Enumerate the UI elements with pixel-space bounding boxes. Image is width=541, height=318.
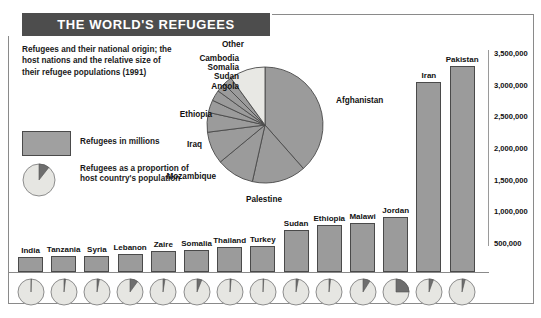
y-axis-tick-1500000: 1,500,000 <box>494 176 528 185</box>
bar-india <box>18 257 43 272</box>
bar-label-jordan: Jordan <box>371 206 420 215</box>
host-proportion-pie-tanzania <box>50 278 78 306</box>
frame-left-rule <box>8 36 9 304</box>
host-proportion-pie-jordan <box>382 278 410 306</box>
host-proportion-pie-thailand <box>216 278 244 306</box>
bar-iran <box>416 82 441 273</box>
origin-label-afghanistan: Afghanistan <box>336 96 383 105</box>
host-proportion-pie-pakistan <box>448 278 476 306</box>
bar-baseline <box>8 272 489 273</box>
y-axis-tick-2500000: 2,500,000 <box>494 112 528 121</box>
y-axis-tick-500000: 500,000 <box>494 239 521 248</box>
legend-bar-swatch <box>22 131 71 156</box>
host-proportion-pie-malawi <box>349 278 377 306</box>
origin-label-palestine: Palestine <box>246 195 282 204</box>
origin-label-angola: Angola <box>171 82 239 91</box>
y-axis-tick-2000000: 2,000,000 <box>494 144 528 153</box>
host-proportion-pie-somalia <box>183 278 211 306</box>
y-axis-tick-3000000: 3,000,000 <box>494 81 528 90</box>
bar-label-iran: Iran <box>404 71 453 80</box>
bar-somalia <box>184 250 209 272</box>
bar-ethiopia <box>317 225 342 272</box>
bar-jordan <box>383 217 408 272</box>
bar-lebanon <box>118 254 143 272</box>
title-banner: THE WORLD'S REFUGEES <box>22 13 270 36</box>
origin-label-mozambique: Mozambique <box>140 172 216 181</box>
origin-label-ethiopia: Ethiopia <box>152 110 212 119</box>
bar-syria <box>84 256 109 272</box>
host-proportion-pie-zaire <box>149 278 177 306</box>
origin-label-sudan: Sudan <box>183 72 239 81</box>
bar-malawi <box>350 223 375 272</box>
y-axis-line <box>488 50 489 246</box>
origin-label-other: Other <box>222 40 244 49</box>
frame-top-rule <box>272 14 534 15</box>
page-title: THE WORLD'S REFUGEES <box>57 17 235 32</box>
subtitle-text: Refugees and their national origin; the … <box>22 44 172 78</box>
legend-bar-label: Refugees in millions <box>80 137 160 146</box>
host-proportion-pie-turkey <box>249 278 277 306</box>
host-proportion-pie-ethiopia <box>315 278 343 306</box>
bar-sudan <box>284 230 309 272</box>
bar-pakistan <box>450 66 475 272</box>
bar-tanzania <box>51 256 76 272</box>
host-proportion-pie-lebanon <box>116 278 144 306</box>
origin-label-somalia: Somalia <box>183 63 239 72</box>
bar-turkey <box>250 246 275 272</box>
host-proportion-pie-syria <box>83 278 111 306</box>
infographic-page: THE WORLD'S REFUGEES Refugees and their … <box>0 0 541 318</box>
origin-label-iraq: Iraq <box>150 140 202 149</box>
bar-zaire <box>151 251 176 272</box>
bar-label-turkey: Turkey <box>238 235 287 244</box>
legend-proportion-pie <box>22 163 56 197</box>
bar-thailand <box>217 247 242 272</box>
y-axis-tick-3500000: 3,500,000 <box>494 49 528 58</box>
origin-label-cambodia: Cambodia <box>183 54 239 63</box>
host-proportion-pie-iran <box>415 278 443 306</box>
host-proportion-pie-india <box>17 278 45 306</box>
frame-right-rule <box>533 14 534 304</box>
host-proportion-pie-sudan <box>282 278 310 306</box>
y-axis-tick-1000000: 1,000,000 <box>494 207 528 216</box>
bar-label-pakistan: Pakistan <box>438 55 487 64</box>
